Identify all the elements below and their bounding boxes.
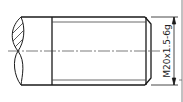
thread-drawing: M20x1.5-6g: [0, 0, 183, 102]
thread-callout-text: M20x1.5-6g: [162, 24, 172, 78]
